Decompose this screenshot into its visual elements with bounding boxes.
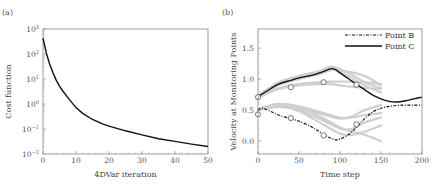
panel-a-cost-curve xyxy=(43,38,208,146)
observation-marker xyxy=(321,80,326,85)
panel-a-cost-function-chart: (a) 0102030405010310210110010−110−2 4DVa… xyxy=(2,8,213,179)
observation-marker xyxy=(321,133,326,138)
observation-marker xyxy=(354,82,359,87)
y-tick-label: 102 xyxy=(26,49,39,59)
legend-point-b-label: Point B xyxy=(385,31,414,40)
panel-b-label: (b) xyxy=(222,8,233,17)
panel-b-legend: Point B Point C xyxy=(345,31,414,51)
figure: (a) 0102030405010310210110010−110−2 4DVa… xyxy=(0,0,439,191)
ensemble-curve xyxy=(258,106,381,130)
y-tick-label: 101 xyxy=(26,74,39,84)
x-tick-label: 30 xyxy=(137,156,147,165)
x-tick-label: 150 xyxy=(374,156,389,165)
x-tick-label: 100 xyxy=(333,156,348,165)
panel-b-ensemble-curves xyxy=(258,67,381,141)
legend-point-c-label: Point C xyxy=(385,42,414,51)
x-tick-label: 0 xyxy=(41,156,46,165)
x-tick-label: 0 xyxy=(256,156,261,165)
y-tick-label: 10−1 xyxy=(22,124,39,134)
x-tick-label: 40 xyxy=(170,156,180,165)
panel-b-ticks: 0501001502000.00.51.01.5 xyxy=(242,36,429,165)
y-tick-label: 0.0 xyxy=(242,137,254,146)
observation-marker xyxy=(288,85,293,90)
x-tick-label: 50 xyxy=(203,156,213,165)
y-tick-label: 10−2 xyxy=(22,149,39,159)
panel-a-plot-frame xyxy=(43,29,208,154)
panel-b-y-axis-label: Velocity at Monitoring Points xyxy=(229,33,238,152)
x-tick-label: 20 xyxy=(104,156,114,165)
panel-a-y-axis-label: Cost function xyxy=(4,64,13,118)
observation-marker xyxy=(288,116,293,121)
y-tick-label: 103 xyxy=(26,24,39,34)
y-tick-label: 0.5 xyxy=(242,106,254,115)
panel-a-label: (a) xyxy=(2,8,13,17)
y-tick-label: 1.5 xyxy=(242,44,254,53)
x-tick-label: 10 xyxy=(71,156,81,165)
x-tick-label: 200 xyxy=(415,156,430,165)
observation-marker xyxy=(354,122,359,127)
y-tick-label: 100 xyxy=(26,99,39,109)
y-tick-label: 1.0 xyxy=(242,75,254,84)
panel-b-velocity-chart: (b) 0501001502000.00.51.01.5 Point B Poi… xyxy=(222,8,429,179)
x-tick-label: 50 xyxy=(294,156,304,165)
panel-a-ticks: 0102030405010310210110010−110−2 xyxy=(22,24,213,166)
panel-b-x-axis-label: Time step xyxy=(320,170,360,179)
panel-a-x-axis-label: 4DVar iteration xyxy=(94,170,156,179)
